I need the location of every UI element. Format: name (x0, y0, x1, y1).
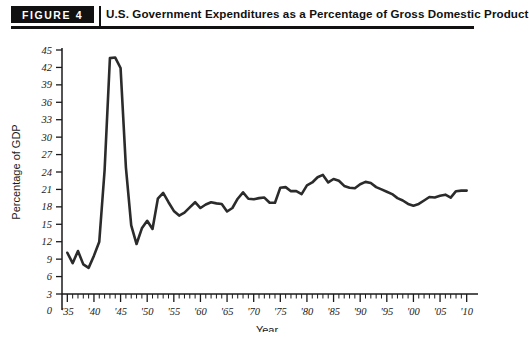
figure-number-badge: FIGURE 4 (11, 6, 94, 23)
plot-area: 0369121518212427303336394245 '35'40'45'5… (0, 32, 485, 332)
y-tick-label: 12 (42, 236, 53, 247)
x-tick-label: '55 (167, 306, 180, 317)
y-tick-label: 3 (46, 289, 52, 300)
y-tick-label: 27 (42, 149, 53, 160)
y-tick-label: 6 (47, 271, 53, 282)
y-tick-label: 21 (42, 184, 53, 195)
x-tick-label: '70 (247, 306, 260, 317)
x-tick-label: '80 (301, 306, 314, 317)
x-tick-label: '65 (221, 306, 234, 317)
x-tick-label: '35 (61, 306, 74, 317)
x-tick-label: '60 (194, 306, 207, 317)
x-tick-label: '40 (88, 306, 101, 317)
x-axis-ticks (67, 294, 466, 302)
y-tick-label: 18 (42, 201, 53, 212)
x-tick-label: '85 (327, 306, 340, 317)
y-tick-label: 42 (42, 62, 53, 73)
y-tick-label: 9 (47, 254, 53, 265)
y-tick-label: 39 (41, 79, 53, 90)
x-axis-tick-labels: '35'40'45'50'55'60'65'70'75'80'85'90'95'… (61, 306, 474, 317)
y-tick-label: 33 (41, 114, 53, 125)
figure-title: U.S. Government Expenditures as a Percen… (106, 7, 529, 20)
x-tick-label: '10 (460, 306, 473, 317)
figure-header: FIGURE 4 U.S. Government Expenditures as… (11, 6, 474, 28)
y-axis-tick-labels: 0369121518212427303336394245 (41, 45, 53, 316)
x-tick-label: '50 (141, 306, 154, 317)
header-vertical-divider (99, 6, 101, 26)
x-tick-label: '00 (407, 306, 420, 317)
x-tick-label: '95 (380, 306, 393, 317)
y-axis-title: Percentage of GDP (10, 124, 22, 219)
x-tick-label: '90 (354, 306, 367, 317)
x-tick-label: '45 (114, 306, 127, 317)
y-axis-ticks (56, 50, 62, 294)
x-axis-title: Year (256, 324, 279, 332)
y-tick-label: 15 (42, 219, 53, 230)
x-tick-label: '75 (274, 306, 287, 317)
line-chart: 0369121518212427303336394245 '35'40'45'5… (0, 32, 485, 332)
y-tick-label: 24 (42, 167, 53, 178)
y-tick-label: 36 (41, 97, 53, 108)
header-horizontal-rule (11, 26, 474, 29)
y-tick-label: 0 (47, 305, 53, 316)
x-tick-label: '05 (434, 306, 447, 317)
y-tick-label: 45 (42, 45, 53, 56)
y-tick-label: 30 (41, 132, 53, 143)
data-series-line (67, 58, 466, 268)
